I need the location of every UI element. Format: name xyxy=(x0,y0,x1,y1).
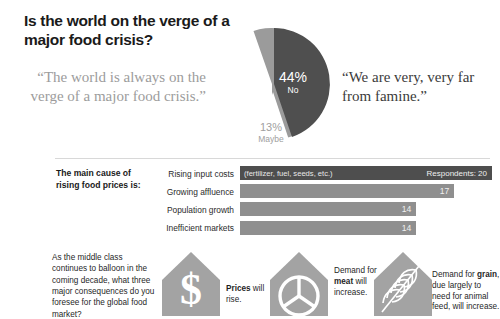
bar-row: Inefficient markets 14 xyxy=(160,221,492,236)
bar-fill: 17 xyxy=(240,184,454,198)
up-arrow-grain-icon xyxy=(372,250,434,316)
bar-row: Rising input costs (fertilizer, fuel, se… xyxy=(160,166,492,181)
pie-value-no: 44% xyxy=(269,70,317,85)
quote-right: “We are very, very far from famine.” xyxy=(342,68,492,106)
bar-category-label: Inefficient markets xyxy=(160,223,234,233)
bar-value-label: 14 xyxy=(402,204,412,214)
bar-annotation: (fertilizer, fuel, seeds, etc.) xyxy=(244,169,333,178)
consequence-text: Demand for grain, due largely to need fo… xyxy=(432,270,500,313)
pie-key-no: No xyxy=(269,86,317,95)
quote-left: “The world is always on the verge of a m… xyxy=(26,68,206,106)
pie-label-maybe: 13% Maybe xyxy=(247,122,295,143)
bar-category-label: Population growth xyxy=(160,205,234,215)
bar-track: 17 xyxy=(240,184,492,198)
consequence-keyword: meat xyxy=(334,277,353,286)
section-divider xyxy=(55,158,490,159)
bar-chart-prompt: The main cause of rising food prices is: xyxy=(56,168,152,191)
bar-fill: 14 xyxy=(240,221,416,235)
pie-key-maybe: Maybe xyxy=(247,135,295,144)
consequences-prompt: As the middle class continues to balloon… xyxy=(52,252,158,319)
consequence-item: Demand for grain, due largely to need fo… xyxy=(372,248,498,319)
bar-track: 14 xyxy=(240,202,492,216)
bar-value-label: 14 xyxy=(402,223,412,233)
bar-row: Population growth 14 xyxy=(160,202,492,217)
bar-fill: (fertilizer, fuel, seeds, etc.) Responde… xyxy=(240,166,492,180)
bar-chart: Rising input costs (fertilizer, fuel, se… xyxy=(160,166,492,239)
bar-value-label: 17 xyxy=(440,186,450,196)
respondents-label: Respondents: 20 xyxy=(427,169,488,178)
bar-row: Growing affluence 17 xyxy=(160,184,492,199)
bar-track: (fertilizer, fuel, seeds, etc.) Responde… xyxy=(240,166,492,180)
bar-track: 14 xyxy=(240,221,492,235)
consequence-pre: Demand for xyxy=(432,270,477,279)
up-arrow-dollar-icon: $ xyxy=(160,250,222,316)
consequence-item: $ Prices will rise. xyxy=(160,248,280,319)
consequences-section: As the middle class continues to balloon… xyxy=(0,248,498,319)
bar-category-label: Growing affluence xyxy=(160,187,234,197)
svg-text:$: $ xyxy=(180,265,202,314)
consequence-keyword: Prices xyxy=(226,284,251,293)
consequence-pre: Demand for xyxy=(334,266,377,275)
pie-value-maybe: 13% xyxy=(247,122,295,134)
consequence-keyword: grain xyxy=(477,270,497,279)
bar-category-label: Rising input costs xyxy=(160,169,234,179)
bar-fill: 14 xyxy=(240,202,416,216)
up-arrow-meat-icon xyxy=(268,250,330,316)
pie-label-no: 44% No xyxy=(269,70,317,95)
pie-chart: 43% Yes 44% No 13% Maybe xyxy=(207,20,337,152)
